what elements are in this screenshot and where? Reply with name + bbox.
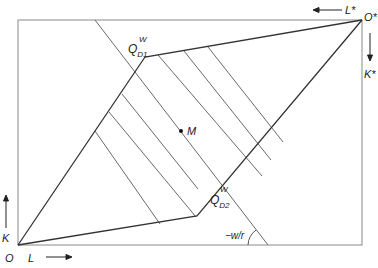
origin-label: O <box>5 252 14 264</box>
labor-axis-star-label: L* <box>345 4 356 16</box>
point-m-dot <box>179 129 183 133</box>
slope-angle-arc <box>248 230 256 245</box>
point-m-label: M <box>187 125 197 137</box>
arrow-left-icon <box>313 8 319 13</box>
qd2-label: QD2 <box>210 193 230 210</box>
edgeworth-box-diagram: O L K O* L* K* QD1 W QD2 W M −w/r <box>0 0 378 268</box>
capital-axis-star-label: K* <box>364 68 376 80</box>
arrow-right-icon <box>66 255 72 260</box>
hatch-line-6 <box>95 131 160 224</box>
qd1-superscript: W <box>139 35 148 44</box>
arrow-down-icon <box>368 55 373 61</box>
slope-label: −w/r <box>225 230 245 241</box>
qd1-label: QD1 <box>128 42 148 59</box>
capital-axis-label: K <box>2 232 10 244</box>
hatch-line-5 <box>109 112 196 217</box>
labor-axis-label: L <box>28 252 34 264</box>
origin-star-label: O* <box>364 11 378 23</box>
arrow-up-icon <box>4 195 9 201</box>
